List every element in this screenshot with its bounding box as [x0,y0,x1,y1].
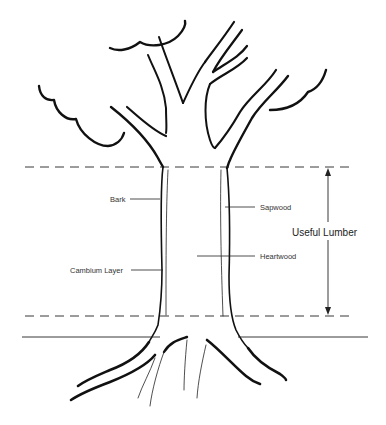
bark-label: Bark [110,195,126,204]
trunk [149,167,248,348]
useful-lumber-label: Useful Lumber [292,227,358,238]
arrow-down-icon [325,307,331,315]
useful-lumber-arrow [325,168,331,315]
reference-lines [22,167,368,337]
tree-diagram: Bark Sapwood Heartwood Cambium Layer Use… [0,0,386,425]
heartwood-label: Heartwood [260,252,296,261]
tree-canopy [39,21,326,168]
roots [71,337,286,406]
arrow-up-icon [325,168,331,176]
sapwood-label: Sapwood [260,203,291,212]
leader-lines [130,199,255,270]
cambium-layer-label: Cambium Layer [70,266,123,275]
